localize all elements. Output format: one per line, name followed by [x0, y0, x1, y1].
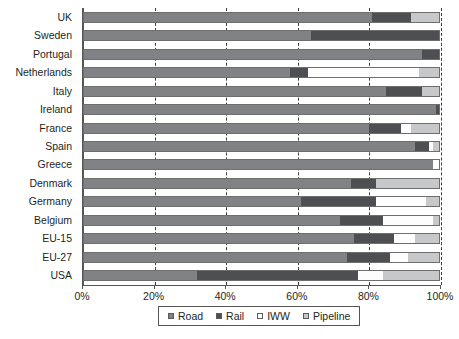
bar-segment-rail: [351, 178, 376, 189]
bar-row: [83, 141, 440, 152]
bar-row: [83, 49, 440, 60]
bar-segment-road: [83, 86, 386, 97]
bar-row: [83, 67, 440, 78]
y-axis-label-sweden: Sweden: [34, 30, 72, 41]
bar-segment-rail: [197, 270, 358, 281]
legend-swatch-rail-icon: [216, 313, 222, 319]
y-axis-label-germany: Germany: [29, 196, 72, 207]
x-axis-tick-20pct: [154, 285, 155, 289]
bar-row: [83, 159, 440, 170]
bar-row: [83, 270, 440, 281]
x-axis-tick-label-80pct: 80%: [358, 290, 379, 302]
y-axis-label-belgium: Belgium: [34, 215, 72, 226]
bar-row: [83, 215, 440, 226]
x-axis-tick-60pct: [297, 285, 298, 289]
bar-segment-rail: [422, 49, 440, 60]
bar-segment-rail: [436, 104, 440, 115]
y-axis-label-eu-27: EU-27: [42, 252, 72, 263]
bar-segment-pipeline: [376, 178, 440, 189]
bar-segment-iww: [394, 233, 415, 244]
legend-swatch-pipeline-icon: [303, 313, 309, 319]
x-axis-line: [82, 285, 440, 286]
bar-segment-rail: [354, 233, 393, 244]
bar-row: [83, 30, 440, 41]
bar-segment-pipeline: [419, 67, 440, 78]
y-axis-label-italy: Italy: [53, 86, 72, 97]
x-axis-tick-label-0pct: 0%: [74, 290, 89, 302]
bar-segment-pipeline: [433, 215, 440, 226]
bar-segment-road: [83, 178, 351, 189]
bar-segment-road: [83, 30, 311, 41]
bar-segment-rail: [290, 67, 308, 78]
y-axis-label-spain: Spain: [45, 141, 72, 152]
bar-row: [83, 86, 440, 97]
bar-segment-road: [83, 270, 197, 281]
bar-row: [83, 252, 440, 263]
bar-row: [83, 233, 440, 244]
y-axis-label-france: France: [39, 123, 72, 134]
bar-segment-iww: [376, 196, 426, 207]
bar-row: [83, 123, 440, 134]
bar-segment-rail: [347, 252, 390, 263]
plot-area: [82, 8, 440, 285]
legend-swatch-iww-icon: [257, 313, 263, 319]
legend-item-iww[interactable]: IWW: [257, 311, 290, 322]
bar-segment-pipeline: [426, 196, 440, 207]
bar-segment-road: [83, 159, 433, 170]
bar-segment-rail: [386, 86, 422, 97]
x-axis-tick-label-40pct: 40%: [215, 290, 236, 302]
legend-swatch-road-icon: [168, 313, 174, 319]
y-axis-label-eu-15: EU-15: [42, 233, 72, 244]
chart-legend: RoadRailIWWPipeline: [158, 306, 360, 326]
bar-segment-iww: [383, 215, 433, 226]
bar-segment-road: [83, 252, 347, 263]
bar-row: [83, 12, 440, 23]
legend-label: IWW: [267, 311, 290, 322]
bar-segment-pipeline: [415, 233, 440, 244]
bar-segment-rail: [340, 215, 383, 226]
bar-segment-rail: [369, 123, 401, 134]
bar-segment-road: [83, 233, 354, 244]
bar-segment-road: [83, 104, 436, 115]
modal-split-stacked-bar-chart: UKSwedenPortugalNetherlandsItalyIrelandF…: [0, 0, 459, 339]
y-axis-label-denmark: Denmark: [29, 178, 72, 189]
bar-segment-rail: [311, 30, 440, 41]
bar-segment-road: [83, 49, 422, 60]
y-axis-label-greece: Greece: [38, 159, 72, 170]
bar-row: [83, 178, 440, 189]
bar-segment-rail: [372, 12, 411, 23]
bar-segment-road: [83, 196, 301, 207]
bar-segment-pipeline: [411, 123, 440, 134]
legend-label: Rail: [226, 311, 244, 322]
bar-row: [83, 196, 440, 207]
bar-segment-iww: [433, 159, 440, 170]
x-axis-tick-100pct: [440, 285, 441, 289]
bar-segment-iww: [401, 123, 412, 134]
bar-segment-rail: [301, 196, 376, 207]
bar-rows: [83, 8, 440, 285]
legend-label: Pipeline: [313, 311, 350, 322]
x-axis-tick-label-60pct: 60%: [286, 290, 307, 302]
bar-segment-pipeline: [411, 12, 440, 23]
legend-item-road[interactable]: Road: [168, 311, 203, 322]
y-axis-label-uk: UK: [57, 12, 72, 23]
gridline-100pct: [441, 8, 442, 285]
bar-segment-iww: [308, 67, 419, 78]
legend-item-pipeline[interactable]: Pipeline: [303, 311, 350, 322]
y-axis-label-portugal: Portugal: [33, 49, 72, 60]
bar-segment-road: [83, 215, 340, 226]
x-axis-tick-label-100pct: 100%: [427, 290, 454, 302]
bar-segment-road: [83, 123, 369, 134]
x-axis-tick-label-20pct: 20%: [143, 290, 164, 302]
bar-segment-rail: [415, 141, 429, 152]
x-axis-tick-0pct: [82, 285, 83, 289]
legend-item-rail[interactable]: Rail: [216, 311, 244, 322]
bar-segment-pipeline: [408, 252, 440, 263]
bar-segment-iww: [358, 270, 383, 281]
legend-label: Road: [178, 311, 203, 322]
bar-row: [83, 104, 440, 115]
y-axis-category-labels: UKSwedenPortugalNetherlandsItalyIrelandF…: [0, 8, 78, 285]
x-axis-tick-80pct: [368, 285, 369, 289]
bar-segment-road: [83, 12, 372, 23]
y-axis-label-netherlands: Netherlands: [15, 67, 72, 78]
